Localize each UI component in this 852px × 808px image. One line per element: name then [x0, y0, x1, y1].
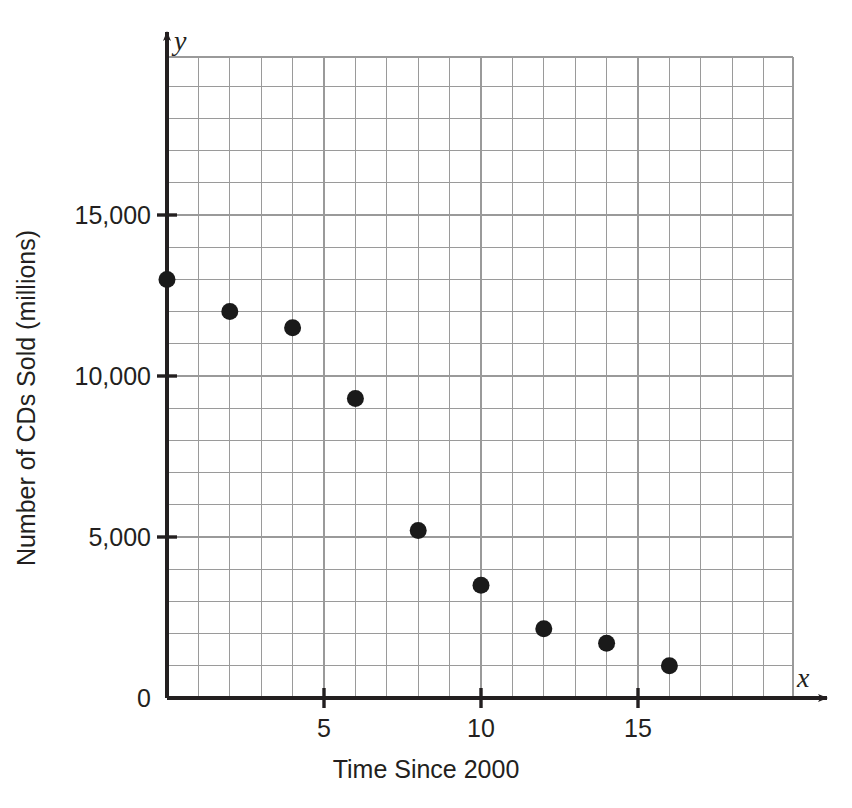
y-tick-label: 15,000 — [75, 203, 151, 228]
axis-lines — [167, 32, 827, 698]
y-tick-label: 5,000 — [88, 525, 151, 550]
x-tick-label: 10 — [467, 716, 495, 741]
y-tick-label: 10,000 — [75, 364, 151, 389]
data-point — [598, 635, 615, 652]
data-point — [347, 390, 364, 407]
grid-lines — [167, 57, 793, 698]
data-point — [473, 577, 490, 594]
data-point — [661, 657, 678, 674]
x-tick-label: 5 — [317, 716, 331, 741]
data-point — [284, 319, 301, 336]
x-tick-label: 15 — [624, 716, 652, 741]
y-tick-label: 0 — [137, 686, 151, 711]
x-axis-variable-label: x — [797, 664, 809, 692]
plot-canvas — [0, 0, 852, 808]
scatter-plot-figure: 05,00010,00015,00051015 x y Time Since 2… — [0, 0, 852, 808]
data-point — [410, 522, 427, 539]
y-axis-variable-label: y — [174, 27, 186, 55]
data-point — [535, 620, 552, 637]
data-point — [159, 271, 176, 288]
data-point — [221, 303, 238, 320]
x-axis-title: Time Since 2000 — [0, 757, 852, 782]
